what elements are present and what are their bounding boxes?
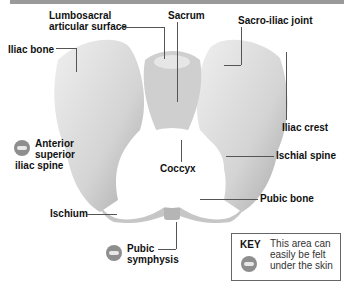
label-line-1: Anterior — [15, 138, 75, 149]
leader-line — [176, 222, 177, 249]
label-coccyx: Coccyx — [160, 163, 196, 174]
label-line-1: Lumbosacral — [49, 10, 127, 21]
label-line-2: articular surface — [49, 21, 127, 32]
key-description: This area can easily be felt under the s… — [270, 238, 338, 271]
leader-line — [164, 27, 165, 59]
label-pubic-symphysis: Pubic symphysis — [127, 243, 179, 265]
leader-line — [158, 249, 176, 250]
label-sacrum: Sacrum — [168, 10, 205, 21]
label-sacro-iliac-joint: Sacro-iliac joint — [238, 15, 312, 26]
palpation-hand-icon — [241, 256, 257, 272]
label-line-2: symphysis — [127, 254, 179, 265]
leader-line — [76, 48, 77, 72]
key-title: KEY — [240, 239, 261, 250]
label-lumbosacral-articular-surface: Lumbosacral articular surface — [49, 10, 127, 32]
leader-line — [181, 140, 182, 162]
leader-line — [87, 214, 117, 215]
label-line-2: superior — [15, 149, 75, 160]
label-ischial-spine: Ischial spine — [276, 150, 336, 161]
leader-line — [200, 199, 258, 200]
label-anterior-superior-iliac-spine: Anterior superior iliac spine — [15, 138, 75, 171]
leader-line — [177, 22, 178, 102]
label-pubic-bone: Pubic bone — [260, 193, 314, 204]
label-ischium: Ischium — [50, 208, 88, 219]
key-legend: KEY This area can easily be felt under t… — [231, 233, 341, 281]
leader-line — [224, 65, 241, 66]
leader-line — [241, 27, 242, 65]
leader-line — [226, 156, 274, 157]
leader-line — [56, 48, 76, 49]
palpation-hand-icon — [106, 245, 122, 261]
leader-line — [286, 52, 287, 120]
leader-line — [120, 27, 164, 28]
label-iliac-crest: Iliac crest — [282, 122, 328, 133]
label-line-3: iliac spine — [15, 160, 75, 171]
label-iliac-bone: Iliac bone — [8, 44, 54, 55]
